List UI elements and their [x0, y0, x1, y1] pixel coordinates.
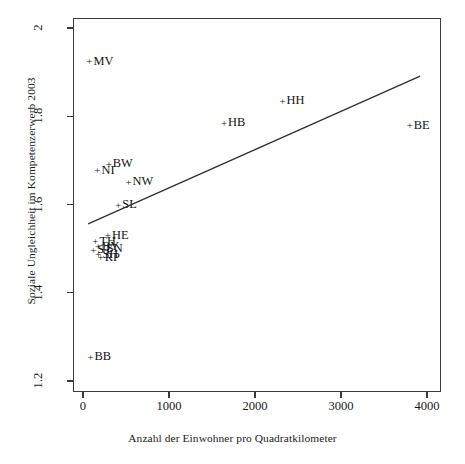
point-label-HH: HH — [287, 94, 305, 106]
x-tick-label-0: 0 — [53, 399, 113, 414]
point-label-HB: HB — [228, 116, 245, 128]
data-point-BE: + — [407, 120, 413, 131]
data-point-NI: + — [94, 165, 100, 176]
x-tick-2000 — [254, 392, 255, 398]
data-point-MV: + — [86, 56, 92, 67]
data-point-NW: + — [125, 176, 131, 187]
point-label-BW: BW — [113, 157, 133, 169]
data-point-BB: + — [87, 351, 93, 362]
y-tick-label-1.2: 1.2 — [31, 358, 46, 404]
scatter-plot-figure: Soziale Ungleichheit im Kompetenzerwerb … — [0, 0, 465, 464]
point-label-NI: NI — [101, 164, 114, 176]
point-label-SL: SL — [122, 198, 136, 210]
point-label-MV: MV — [93, 55, 113, 67]
y-tick-label-1.8: 1.8 — [31, 93, 46, 139]
x-tick-label-2000: 2000 — [225, 399, 285, 414]
y-tick-1.8 — [67, 116, 73, 117]
x-axis-title: Anzahl der Einwohner pro Quadratkilomete… — [0, 432, 465, 444]
x-tick-4000 — [426, 392, 427, 398]
y-tick-1.6 — [67, 204, 73, 205]
y-tick-label-2: 2 — [31, 5, 46, 51]
x-tick-0 — [82, 392, 83, 398]
x-tick-label-1000: 1000 — [139, 399, 199, 414]
point-label-BE: BE — [414, 119, 430, 131]
x-tick-label-3000: 3000 — [311, 399, 371, 414]
data-point-RP: + — [98, 252, 104, 263]
y-tick-label-1.4: 1.4 — [31, 269, 46, 315]
y-tick-2 — [67, 27, 73, 28]
point-label-RP: RP — [105, 251, 120, 263]
x-tick-3000 — [340, 392, 341, 398]
x-tick-1000 — [168, 392, 169, 398]
data-point-HH: + — [279, 95, 285, 106]
y-tick-1.2 — [67, 380, 73, 381]
data-point-SL: + — [115, 199, 121, 210]
point-label-NW: NW — [133, 175, 154, 187]
data-point-HB: + — [221, 117, 227, 128]
x-tick-label-4000: 4000 — [397, 399, 457, 414]
point-label-BB: BB — [95, 350, 112, 362]
y-tick-label-1.6: 1.6 — [31, 181, 46, 227]
y-tick-1.4 — [67, 292, 73, 293]
